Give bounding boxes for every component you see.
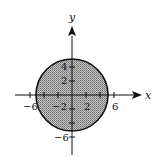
y-tick-label-4: 4 — [61, 61, 67, 72]
y-axis-arrow-icon — [68, 26, 76, 36]
y-tick-label-2: 2 — [61, 75, 67, 86]
x-tick-label-neg2: −2 — [52, 101, 67, 112]
y-axis-label: y — [68, 11, 76, 24]
y-tick-label-neg6: −6 — [54, 132, 69, 143]
x-tick-label-neg6: −6 — [23, 101, 38, 112]
x-tick-label-2: 2 — [84, 101, 90, 112]
x-tick-label-6: 6 — [112, 101, 118, 112]
disk-diagram: y x −6 −2 2 6 4 2 −6 — [0, 0, 157, 164]
x-axis-label: x — [145, 89, 152, 102]
